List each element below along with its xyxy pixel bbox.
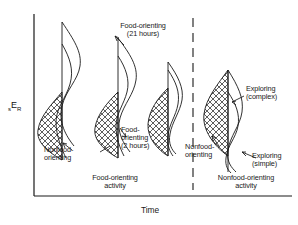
y-axis-label-post-subscript: R <box>17 106 21 112</box>
annotation-exploring-simple: Exploring (simple) <box>252 152 298 168</box>
annotation-nonfood-orienting-left: Nonfood- orienting <box>44 146 92 162</box>
annotation-food-orienting-2h: Food- orienting (2 hours) <box>121 126 169 151</box>
group-1 <box>38 22 81 160</box>
figure-canvas: sER Time Food-orienting (21 hours) Food-… <box>0 0 298 225</box>
section-label-right: Nonfood-orienting activity <box>198 174 294 190</box>
group-3-open-lobe-b <box>168 70 179 156</box>
x-axis-label: Time <box>115 206 185 214</box>
group-3-open-lobe-a <box>168 62 182 154</box>
annotation-exploring-complex: Exploring (complex) <box>246 85 296 101</box>
section-label-left: Food-orienting activity <box>70 174 160 190</box>
annotation-nonfood-orienting-right: Nonfood- orienting <box>185 143 233 159</box>
y-axis-label: sER <box>8 100 21 112</box>
annotation-food-orienting-21h: Food-orienting (21 hours) <box>104 22 182 38</box>
group-1-open-lobe-a <box>61 22 80 146</box>
